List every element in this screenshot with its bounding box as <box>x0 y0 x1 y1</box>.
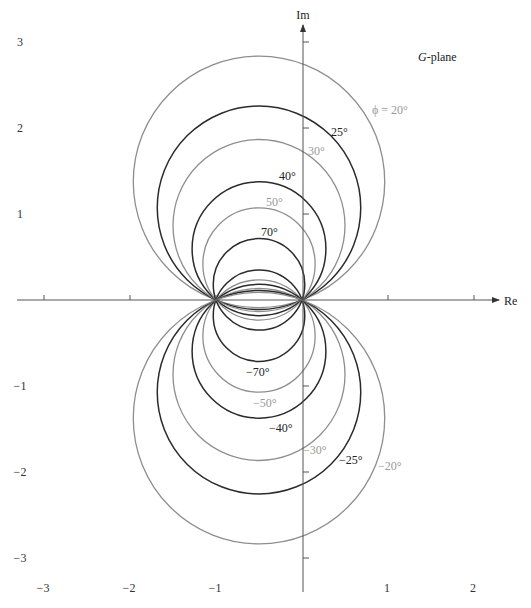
y-tick-label: 3 <box>17 35 23 49</box>
plane-title-italic: G <box>418 50 427 64</box>
n-circles-diagram: Re Im G-plane −3−2−112321−1−2−3 ϕ = 20°2… <box>0 0 531 608</box>
phase-label: −25° <box>339 453 363 467</box>
phase-label: −40° <box>269 421 293 435</box>
phase-label: 50° <box>266 195 283 209</box>
plane-title: G-plane <box>418 50 457 64</box>
tick-labels: −3−2−112321−1−2−3 <box>14 35 476 595</box>
phase-circle <box>173 140 345 312</box>
phase-label: 40° <box>279 169 296 183</box>
phase-label: −70° <box>246 365 270 379</box>
real-axis-label: Re <box>504 294 517 308</box>
phase-label: 70° <box>261 225 278 239</box>
x-tick-label: −1 <box>209 581 222 595</box>
x-tick-label: 2 <box>470 581 476 595</box>
y-tick-label: −2 <box>14 465 27 479</box>
x-tick-label: −2 <box>123 581 136 595</box>
phase-label: −50° <box>253 396 277 410</box>
phase-label: 25° <box>331 125 348 139</box>
plane-title-rest: -plane <box>427 50 457 64</box>
phase-label: −20° <box>378 459 402 473</box>
y-tick-label: −1 <box>14 379 27 393</box>
x-tick-label: −3 <box>37 581 50 595</box>
y-tick-label: 1 <box>17 207 23 221</box>
x-tick-label: 1 <box>384 581 390 595</box>
phase-label: ϕ = 20° <box>372 103 408 117</box>
phase-label: −30° <box>303 443 327 457</box>
phase-label: 30° <box>308 144 325 158</box>
phase-circle <box>203 208 315 320</box>
y-tick-label: −3 <box>14 551 27 565</box>
imaginary-axis-label: Im <box>296 8 310 22</box>
y-tick-label: 2 <box>17 121 23 135</box>
